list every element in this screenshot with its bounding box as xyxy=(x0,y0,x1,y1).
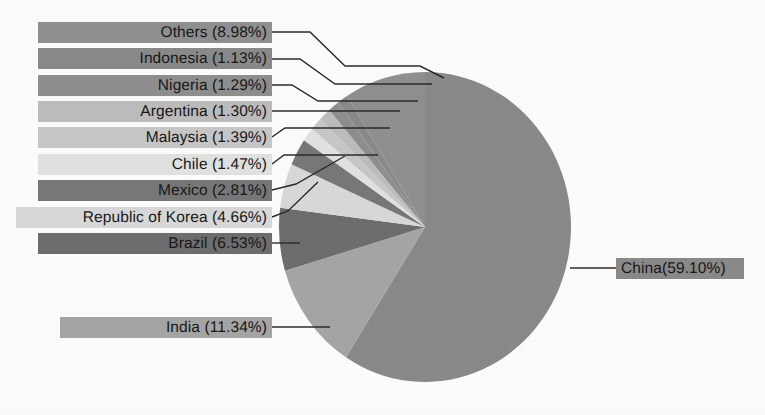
pie-slice-group xyxy=(279,72,571,382)
pie-label-brazil: Brazil (6.53%) xyxy=(38,233,272,254)
pie-label-indonesia: Indonesia (1.13%) xyxy=(38,48,272,69)
pie-label-korea: Republic of Korea (4.66%) xyxy=(16,207,272,228)
pie-label-india: India (11.34%) xyxy=(60,317,272,338)
pie-label-mexico: Mexico (2.81%) xyxy=(38,180,272,201)
pie-label-china: China(59.10%) xyxy=(616,258,744,279)
pie-label-nigeria: Nigeria (1.29%) xyxy=(38,75,272,96)
pie-label-chile: Chile (1.47%) xyxy=(38,154,272,175)
pie-chart-figure: Others (8.98%) Indonesia (1.13%) Nigeria… xyxy=(0,0,765,415)
pie-label-argentina: Argentina (1.30%) xyxy=(38,101,272,122)
pie-label-others: Others (8.98%) xyxy=(38,22,272,43)
leader-line-others xyxy=(272,32,444,78)
pie-label-malaysia: Malaysia (1.39%) xyxy=(38,127,272,148)
